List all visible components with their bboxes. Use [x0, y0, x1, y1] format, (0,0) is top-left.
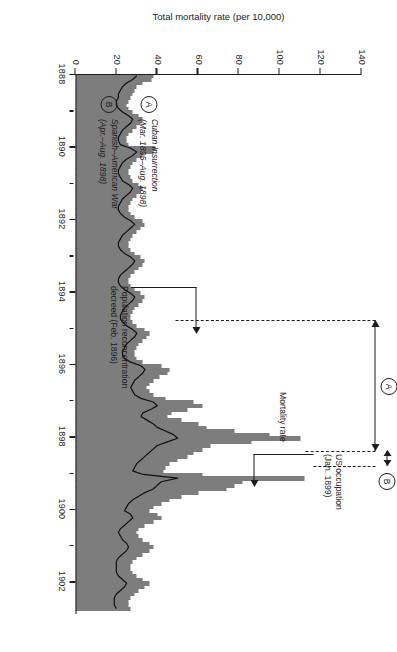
chart-plot-area: 020406080100120140 188818901892189418961… [75, 74, 361, 614]
x-axis-line [75, 74, 76, 614]
annotation-reconcentration-line2: decreed (Feb. 1896) [108, 286, 119, 388]
annotation-reconcentration-arrowhead [192, 327, 200, 334]
span-a-bar [374, 320, 375, 451]
annotation-us-occupation-leader-vertical [253, 454, 313, 455]
y-axis-title: Total mortality rate (per 10,000) [152, 11, 284, 22]
annotation-reconcentration-leader-horizontal [195, 287, 196, 327]
x-tick-label: 1902 [56, 571, 66, 592]
annotation-reconcentration-line1: Population reconcentration [118, 286, 129, 388]
span-b-arrow-left [383, 450, 391, 456]
x-tick-label: 1894 [56, 281, 66, 302]
x-tick [69, 436, 75, 437]
span-b-end-dashed-line [313, 466, 375, 467]
legend-marker-a: A [140, 96, 157, 113]
legend-text-b: Spanish–American War (Apr.–Aug. 1898) [96, 119, 119, 209]
x-tick-minor [69, 328, 73, 329]
annotation-us-occupation-line1: US occupation [332, 454, 343, 510]
y-tick [237, 68, 238, 74]
annotation-us-occupation: US occupation (Jan. 1899) [322, 454, 343, 510]
x-tick-label: 1898 [56, 426, 66, 447]
x-tick [69, 146, 75, 147]
legend-a-line1: Cuban Insurrection [147, 119, 159, 207]
span-b-marker-label: B [382, 479, 392, 485]
x-tick-minor [69, 473, 73, 474]
legend-marker-a-label: A [144, 102, 154, 108]
annotation-reconcentration-leader-vertical [130, 287, 196, 288]
y-tick-label: 60 [193, 55, 203, 65]
x-tick [69, 581, 75, 582]
span-a-start-dashed-line [175, 320, 375, 321]
y-tick-label: 0 [70, 60, 80, 65]
y-tick [319, 68, 320, 74]
x-tick-label: 1900 [56, 498, 66, 519]
x-tick [69, 291, 75, 292]
annotation-us-occupation-leader-horizontal [253, 454, 254, 480]
span-a-arrow-right [371, 444, 379, 451]
legend-marker-b: B [100, 96, 117, 113]
x-tick-minor [69, 183, 73, 184]
x-tick-label: 1892 [56, 209, 66, 230]
y-axis-line [75, 74, 361, 75]
span-a-marker: A [380, 378, 397, 395]
span-a-arrow-left [371, 320, 379, 327]
y-tick [115, 68, 116, 74]
y-tick-label: 100 [274, 49, 284, 65]
x-tick [69, 509, 75, 510]
legend-text-a: Cuban Insurrection (Mar. 1895–Aug. 1898) [136, 119, 159, 207]
y-tick [360, 68, 361, 74]
y-tick-label: 40 [152, 55, 162, 65]
y-tick-label: 140 [356, 49, 366, 65]
y-tick-label: 80 [233, 55, 243, 65]
x-tick-label: 1890 [56, 136, 66, 157]
x-tick-label: 1896 [56, 354, 66, 375]
span-b-marker: B [378, 473, 395, 490]
y-tick [196, 68, 197, 74]
span-b-arrow-right [383, 460, 391, 466]
span-a-end-dashed-line [305, 451, 375, 452]
x-tick-minor [69, 255, 73, 256]
legend-a-line2: (Mar. 1895–Aug. 1898) [136, 119, 148, 207]
x-tick-minor [69, 545, 73, 546]
annotation-us-occupation-line2: (Jan. 1899) [322, 454, 333, 510]
y-tick-label: 20 [111, 55, 121, 65]
x-tick-label: 1888 [56, 64, 66, 85]
legend-b-line1: Spanish–American War [107, 119, 119, 209]
legend-b-line2: (Apr.–Aug. 1898) [96, 119, 108, 209]
annotation-mortality-rate-label: Mortality rate [276, 392, 287, 442]
span-a-marker-label: A [384, 384, 394, 390]
annotation-reconcentration: Population reconcentration decreed (Feb.… [108, 286, 129, 388]
x-tick [69, 74, 75, 75]
y-tick [278, 68, 279, 74]
x-tick-minor [69, 110, 73, 111]
y-tick-label: 120 [315, 49, 325, 65]
x-tick [69, 219, 75, 220]
legend-marker-b-label: B [104, 102, 114, 108]
x-tick [69, 364, 75, 365]
annotation-us-occupation-arrowhead [250, 480, 258, 487]
y-tick [155, 68, 156, 74]
x-tick-minor [69, 400, 73, 401]
